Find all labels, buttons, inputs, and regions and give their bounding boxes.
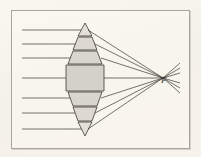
optics-ray-diagram (0, 0, 201, 157)
figure-canvas: F Seven parallel horizontal rays enter f… (0, 0, 201, 157)
lens-prism-sections-group (66, 23, 104, 136)
focal-point-label: F (161, 75, 167, 85)
prism-upper-2 (73, 37, 97, 50)
prism-upper-3 (68, 51, 102, 64)
slab-center (66, 65, 104, 91)
prism-lower-5 (68, 92, 102, 106)
prism-top-apex (78, 23, 92, 36)
prism-lower-6 (73, 107, 97, 121)
refracted-ray-6 (95, 78, 163, 113)
refracted-ray-5 (101, 78, 163, 98)
refracted-ray-2 (95, 44, 163, 78)
refracted-ray-3 (101, 58, 163, 78)
